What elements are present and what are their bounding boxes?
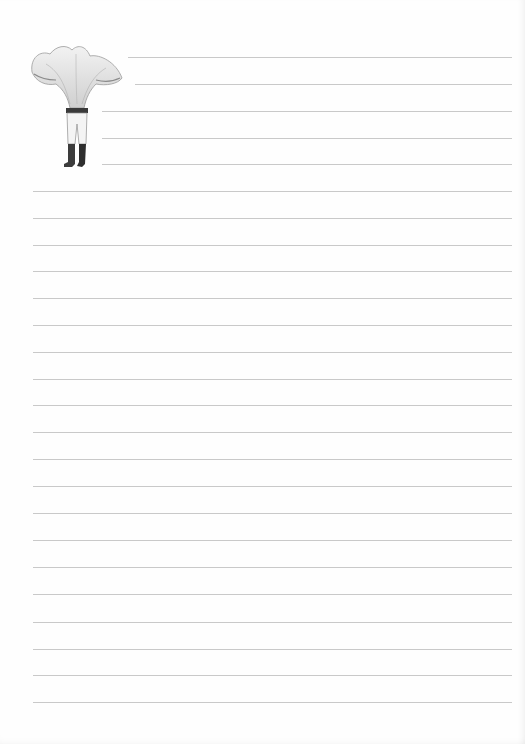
ruled-line (33, 649, 512, 650)
ruled-line (33, 191, 512, 192)
ruled-line (102, 138, 512, 139)
ruled-line (33, 513, 512, 514)
ruled-line (33, 379, 512, 380)
ruled-line (33, 352, 512, 353)
ruled-line (33, 675, 512, 676)
ruled-line (102, 164, 512, 165)
ruled-line (128, 57, 512, 58)
ruled-line (102, 111, 512, 112)
ruled-line (33, 325, 512, 326)
ruled-line (33, 567, 512, 568)
ruled-line (33, 218, 512, 219)
ruled-line (33, 405, 512, 406)
ruled-line (33, 245, 512, 246)
ruled-line (33, 622, 512, 623)
ruled-line (33, 702, 512, 703)
ruled-line (33, 271, 512, 272)
ruled-line (33, 459, 512, 460)
ruled-line (33, 432, 512, 433)
ruled-line (33, 540, 512, 541)
ruled-line (33, 486, 512, 487)
ruled-line (135, 84, 512, 85)
ruled-line (33, 594, 512, 595)
mushroom-figure-icon (26, 40, 126, 180)
ruled-line (33, 298, 512, 299)
lined-paper-page (0, 0, 525, 744)
